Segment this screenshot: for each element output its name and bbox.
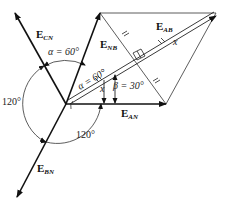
- vector-labels: ECN ENB EAB EAN EBN: [36, 20, 173, 176]
- label-e-bn: EBN: [37, 162, 55, 176]
- phasor-diagram: ECN ENB EAB EAN EBN α = 60° α = 60° β = …: [0, 0, 232, 203]
- label-120-bottom: 120°: [76, 129, 95, 140]
- label-e-ab: EAB: [156, 20, 173, 34]
- label-alpha-top: α = 60°: [48, 46, 79, 57]
- label-e-an: EAN: [121, 107, 139, 121]
- label-x-right: x: [172, 36, 178, 47]
- label-e-cn: ECN: [36, 28, 54, 42]
- label-beta: β = 30°: [112, 80, 144, 91]
- angle-labels: α = 60° α = 60° β = 30° 120° 120° x x: [2, 36, 178, 140]
- label-x-inner: x: [99, 83, 105, 94]
- label-e-nb: ENB: [100, 38, 117, 52]
- vector-e-bn: [17, 104, 66, 197]
- vector-e-cn: [15, 13, 66, 104]
- label-120-left: 120°: [2, 96, 21, 107]
